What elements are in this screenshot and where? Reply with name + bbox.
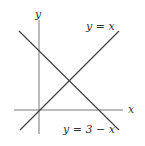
graph-figure: y x y = x y = 3 − x	[0, 0, 145, 146]
x-axis-label: x	[128, 103, 135, 116]
line-label-y-equals-3-minus-x: y = 3 − x	[62, 123, 116, 136]
graph-svg: y x y = x y = 3 − x	[0, 0, 145, 146]
y-axis-label: y	[34, 8, 42, 21]
line-label-y-equals-x: y = x	[85, 20, 115, 33]
